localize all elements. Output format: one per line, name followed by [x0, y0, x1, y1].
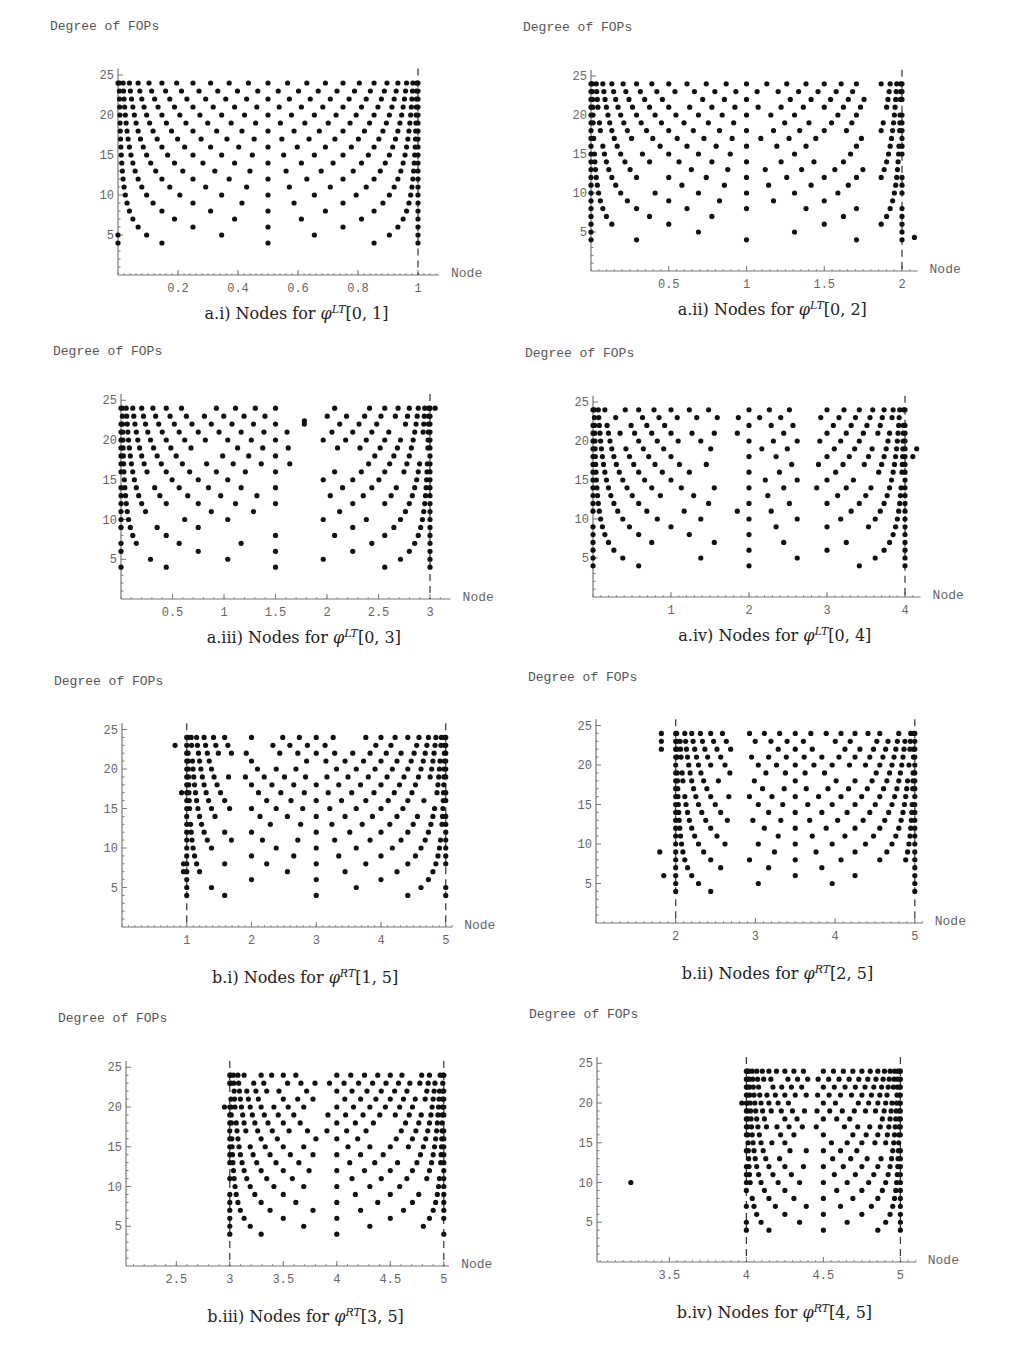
x-tick-label: 4	[743, 1269, 750, 1283]
figure-caption: b.iv) Nodes for φRT[4, 5]	[677, 1302, 872, 1322]
y-tick-label: 20	[579, 1097, 593, 1111]
scatter-plot: 5101520253.544.55Node	[0, 0, 1016, 1356]
y-tick-label: 25	[579, 1057, 593, 1071]
x-tick-label: 4.5	[813, 1269, 835, 1283]
y-tick-label: 15	[579, 1137, 593, 1151]
y-tick-label: 10	[579, 1177, 593, 1191]
node-points	[628, 1069, 903, 1233]
x-tick-label: 3.5	[659, 1269, 681, 1283]
y-tick-label: 5	[586, 1216, 593, 1230]
x-tick-label: 5	[897, 1269, 904, 1283]
x-axis-title: Node	[928, 1253, 959, 1268]
